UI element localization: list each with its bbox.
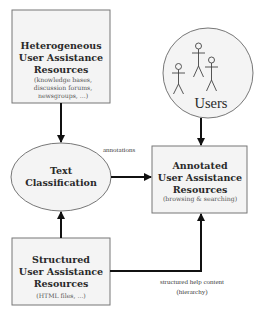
structured-title-line-2: User Assistance	[19, 266, 103, 277]
architecture-diagram: Heterogeneous User Assistance Resources …	[0, 0, 256, 312]
edge-label-annotations: annotations	[103, 146, 136, 154]
node-structured-resources: Structured User Assistance Resources (HT…	[12, 238, 110, 305]
structured-title-line-1: Structured	[32, 254, 90, 265]
edge-label-structured-help-line-1: structured help content	[160, 278, 224, 286]
heterogeneous-title-line-3: Resources	[34, 64, 89, 75]
classification-title-line-1: Text	[50, 165, 73, 176]
node-text-classification: Text Classification	[11, 143, 111, 211]
heterogeneous-sub-line-1: (knowledge bases,	[34, 76, 92, 84]
heterogeneous-sub-line-2: discussion forums,	[34, 84, 93, 91]
node-users: Users	[163, 28, 253, 118]
heterogeneous-title-line-1: Heterogeneous	[20, 40, 101, 51]
node-heterogeneous-resources: Heterogeneous User Assistance Resources …	[12, 10, 110, 103]
structured-title-line-3: Resources	[34, 278, 89, 289]
heterogeneous-sub-line-3: newsgroups, ...)	[38, 92, 88, 100]
classification-title-line-2: Classification	[25, 177, 97, 188]
annotated-title-line-3: Resources	[173, 184, 228, 195]
structured-sub-line-1: (HTML files, ...)	[36, 292, 86, 299]
edge-label-structured-help-line-2: (hierarchy)	[176, 288, 208, 296]
annotated-title-line-1: Annotated	[171, 160, 227, 171]
edge-structured-to-annotated	[110, 214, 201, 271]
annotated-sub-line-1: (browsing & searching)	[163, 195, 237, 203]
annotated-title-line-2: User Assistance	[158, 172, 242, 183]
heterogeneous-title-line-2: User Assistance	[19, 52, 103, 63]
node-annotated-resources: Annotated User Assistance Resources (bro…	[152, 146, 247, 213]
users-label: Users	[194, 95, 227, 111]
